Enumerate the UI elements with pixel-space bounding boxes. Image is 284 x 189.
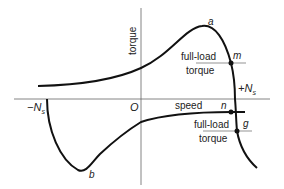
torque-axis-label: torque — [128, 27, 138, 55]
origin-label: O — [130, 102, 139, 113]
upper-full-load-label: full-load — [181, 52, 216, 62]
motor-torque-curve — [38, 26, 257, 168]
point-n — [229, 110, 234, 115]
pos-sync-speed-label: +Ns — [238, 83, 256, 96]
point-n-label: n — [221, 101, 227, 111]
speed-axis-label: speed — [175, 101, 202, 111]
point-g — [235, 129, 240, 134]
upper-torque-label: torque — [186, 66, 214, 76]
neg-sync-speed-label: −Ns — [27, 102, 45, 115]
lower-full-load-label: full-load — [194, 120, 229, 130]
point-m-label: m — [233, 51, 241, 61]
point-g-label: g — [243, 119, 249, 129]
point-a-label: a — [208, 17, 214, 27]
point-m — [229, 61, 234, 66]
lower-torque-label: torque — [199, 134, 227, 144]
point-b-label: b — [89, 170, 95, 180]
